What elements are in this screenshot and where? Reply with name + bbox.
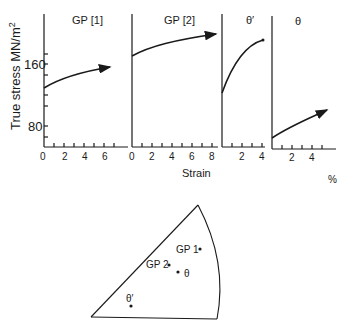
x-tick: 0 (40, 151, 46, 162)
panel-gp1 (44, 14, 128, 147)
panel-theta-prime (222, 14, 265, 147)
y-tick-80: 80 (28, 119, 42, 134)
data-points (129, 247, 201, 307)
panel-title-theta-prime: θ′ (246, 14, 254, 26)
x-tick: 2 (289, 152, 295, 163)
x-tick: 6 (189, 151, 195, 162)
x-tick: 4 (82, 151, 88, 162)
point-label-theta-prime: θ′ (126, 293, 134, 304)
x-tick: 2 (149, 151, 155, 162)
point-label-gp1: GP 1 (176, 244, 199, 255)
x-tick: 2 (62, 151, 68, 162)
figure: True stress MN/m2 160 80 GP [1] 0 2 4 6 … (0, 0, 346, 328)
x-tick: 0 (129, 151, 135, 162)
x-tick: 6 (102, 151, 108, 162)
y-tick-160: 160 (24, 57, 46, 72)
x-tick: 4 (309, 152, 315, 163)
x-tick: 4 (259, 151, 265, 162)
point-label-gp2: GP 2 (146, 259, 169, 270)
panel-title-theta: θ (295, 15, 301, 27)
x-tick: 8 (209, 151, 215, 162)
percent-label: % (328, 174, 337, 185)
point-label-theta: θ (184, 268, 190, 279)
panel-title-gp2: GP [2] (164, 14, 195, 26)
y-axis-label: True stress MN/m2 (7, 22, 23, 130)
x-tick: 2 (239, 151, 245, 162)
panel-gp2 (132, 14, 218, 147)
x-tick: 4 (169, 151, 175, 162)
x-axis-label: Strain (182, 167, 211, 179)
panel-title-gp1: GP [1] (72, 14, 103, 26)
panel-theta (272, 16, 336, 149)
